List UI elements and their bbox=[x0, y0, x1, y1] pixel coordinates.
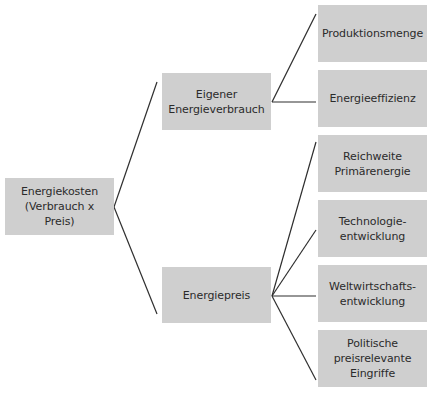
connector-preis-to-technologie bbox=[272, 230, 316, 296]
node-weltwirtschaftsentwicklung-label: Weltwirtschafts- entwicklung bbox=[329, 279, 416, 309]
node-energiepreis: Energiepreis bbox=[162, 267, 271, 323]
node-produktionsmenge-label: Produktionsmenge bbox=[322, 26, 423, 41]
energy-cost-tree-diagram: Energiekosten (Verbrauch x Preis) Eigene… bbox=[0, 0, 433, 393]
node-technologieentwicklung: Technologie- entwicklung bbox=[318, 200, 427, 257]
connector-preis-to-politische bbox=[272, 296, 316, 380]
node-technologieentwicklung-label: Technologie- entwicklung bbox=[339, 214, 407, 244]
node-eigener-energieverbrauch-label: Eigener Energieverbrauch bbox=[168, 87, 264, 117]
node-eigener-energieverbrauch: Eigener Energieverbrauch bbox=[162, 73, 271, 130]
node-energiekosten-label: Energiekosten (Verbrauch x Preis) bbox=[9, 184, 110, 229]
node-energieeffizienz-label: Energieeffizienz bbox=[329, 91, 415, 106]
node-weltwirtschaftsentwicklung: Weltwirtschafts- entwicklung bbox=[318, 265, 427, 322]
connector-root-to-eigener bbox=[114, 82, 157, 207]
node-energiepreis-label: Energiepreis bbox=[183, 288, 250, 303]
node-energiekosten: Energiekosten (Verbrauch x Preis) bbox=[5, 178, 114, 235]
connector-eigener-to-produktionsmenge bbox=[272, 14, 316, 102]
connector-preis-to-reichweite bbox=[272, 142, 316, 296]
node-reichweite-primaerenergie-label: Reichweite Primärenergie bbox=[334, 149, 410, 179]
node-reichweite-primaerenergie: Reichweite Primärenergie bbox=[318, 135, 427, 192]
connector-root-to-energiepreis bbox=[114, 207, 157, 314]
node-politische-eingriffe-label: Politische preisrelevante Eingriffe bbox=[334, 336, 412, 381]
node-produktionsmenge: Produktionsmenge bbox=[318, 5, 427, 62]
node-politische-eingriffe: Politische preisrelevante Eingriffe bbox=[318, 330, 427, 387]
node-energieeffizienz: Energieeffizienz bbox=[318, 70, 427, 127]
